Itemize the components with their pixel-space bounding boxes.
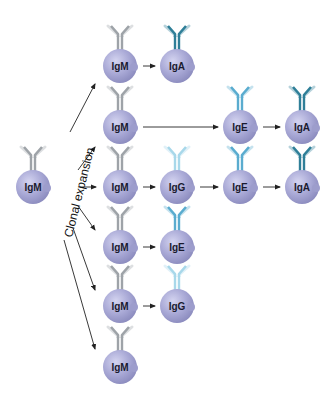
b-cell-igm: IgM [103, 327, 138, 384]
source-b-cell: IgM [16, 147, 51, 204]
cell-label: IgM [111, 362, 128, 373]
cell-bulge [130, 244, 138, 252]
antibody-icon [228, 87, 252, 114]
cell-label: IgA [294, 122, 310, 133]
antibody-icon [108, 327, 132, 354]
cell-label: IgE [232, 122, 248, 133]
b-cell-igm: IgM [103, 147, 138, 204]
antibody-icon [108, 147, 132, 174]
b-cell-ige: IgE [160, 207, 195, 264]
cell-bulge [130, 364, 138, 372]
b-cell-iga: IgA [285, 87, 320, 144]
antibody-icon [165, 266, 189, 293]
cell-label: IgG [169, 301, 186, 312]
cell-bulge [187, 244, 195, 252]
class-switching-diagram: IgMIgMIgAIgMIgEIgAIgMIgGIgEIgAIgMIgEIgMI… [0, 0, 333, 395]
cell-label: IgM [111, 182, 128, 193]
b-cell-iga: IgA [285, 147, 320, 204]
antibody-icon [290, 87, 314, 114]
b-cell-ige: IgE [223, 87, 258, 144]
cell-bulge [43, 184, 51, 192]
cell-label: IgG [169, 182, 186, 193]
expansion-arrow [64, 240, 95, 349]
cell-bulge [312, 124, 320, 132]
cell-label: IgM [24, 182, 41, 193]
b-cell-igm: IgM [103, 87, 138, 144]
cell-label: IgM [111, 122, 128, 133]
b-cell-iga: IgA [160, 26, 195, 83]
antibody-icon [108, 207, 132, 234]
cell-bulge [187, 184, 195, 192]
b-cell-ige: IgE [223, 147, 258, 204]
antibody-icon [228, 147, 252, 174]
b-cells: IgMIgMIgAIgMIgEIgAIgMIgGIgEIgAIgMIgEIgMI… [16, 26, 320, 384]
cell-bulge [130, 184, 138, 192]
cell-label: IgM [111, 242, 128, 253]
antibody-icon [165, 26, 189, 53]
antibody-icon [108, 87, 132, 114]
cell-bulge [187, 303, 195, 311]
expansion-arrow [73, 228, 95, 290]
cell-bulge [130, 124, 138, 132]
cell-bulge [187, 63, 195, 71]
expansion-arrow [70, 84, 95, 132]
cell-bulge [250, 184, 258, 192]
antibody-icon [108, 266, 132, 293]
b-cell-igm: IgM [103, 207, 138, 264]
antibody-icon [290, 147, 314, 174]
antibody-icon [165, 147, 189, 174]
cell-label: IgA [294, 182, 310, 193]
b-cell-igg: IgG [160, 147, 195, 204]
b-cell-igm: IgM [103, 266, 138, 323]
antibody-icon [21, 147, 45, 174]
cell-bulge [250, 124, 258, 132]
antibody-icon [108, 26, 132, 53]
cell-label: IgE [169, 242, 185, 253]
cell-label: IgM [111, 61, 128, 72]
cell-bulge [130, 303, 138, 311]
cell-label: IgM [111, 301, 128, 312]
cell-label: IgA [169, 61, 185, 72]
b-cell-igg: IgG [160, 266, 195, 323]
antibody-icon [165, 207, 189, 234]
b-cell-igm: IgM [103, 26, 138, 83]
cell-label: IgE [232, 182, 248, 193]
cell-bulge [312, 184, 320, 192]
cell-bulge [130, 63, 138, 71]
